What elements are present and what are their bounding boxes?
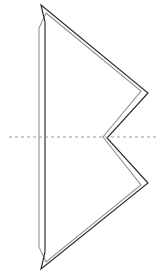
figure-canvas: [0, 0, 163, 274]
line-drawing-svg: [0, 0, 163, 274]
